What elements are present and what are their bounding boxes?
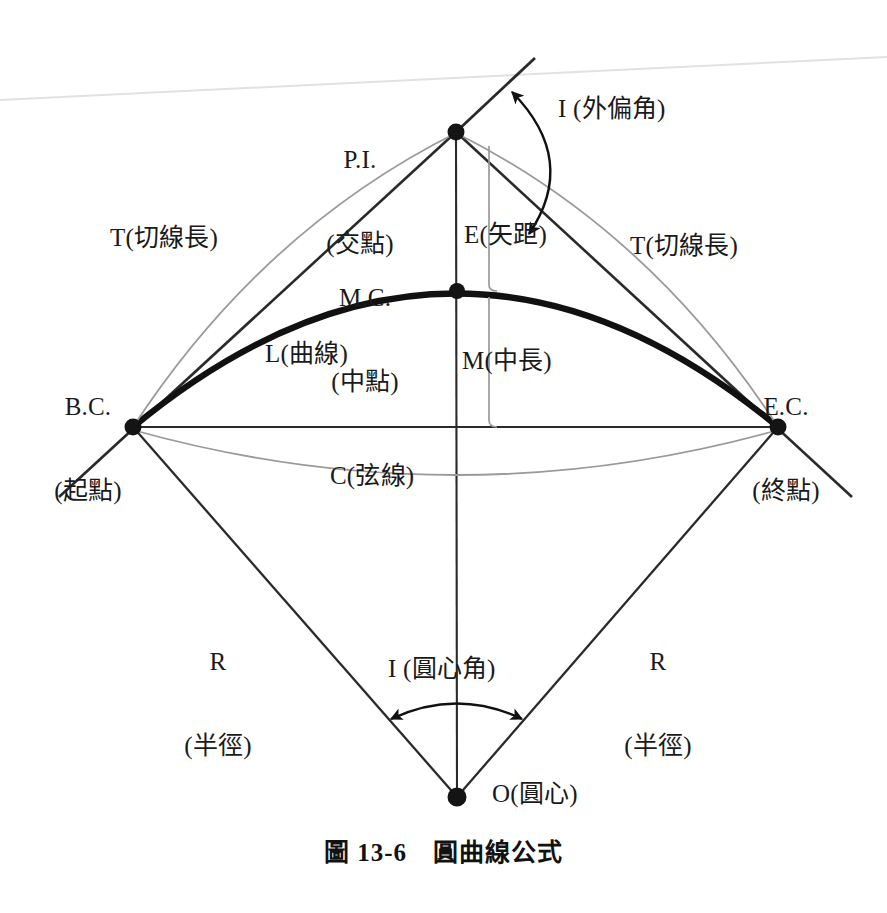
pi-point-dot bbox=[448, 124, 465, 141]
scan-artifact-line bbox=[0, 57, 887, 100]
label-center: O(圓心) bbox=[492, 780, 578, 808]
center-point-dot bbox=[448, 788, 467, 807]
tangent-extension-top bbox=[456, 58, 535, 132]
label-middle-ordinate: M(中長) bbox=[462, 347, 552, 375]
mc-point-dot bbox=[449, 283, 465, 299]
label-arc-length: L(曲線) bbox=[265, 340, 348, 368]
label-tangent-right: T(切線長) bbox=[630, 232, 738, 260]
label-bc: B.C. (起點) bbox=[28, 337, 148, 561]
label-central-angle: I (圓心角) bbox=[388, 655, 496, 683]
label-external: E(矢距) bbox=[464, 221, 547, 249]
label-pi-code: P.I. bbox=[300, 146, 420, 174]
label-radius-right: R (半徑) bbox=[598, 592, 718, 816]
label-bc-chinese: (起點) bbox=[28, 477, 148, 505]
label-bc-code: B.C. bbox=[28, 393, 148, 421]
label-ec-code: E.C. bbox=[726, 393, 846, 421]
label-radius-left: R (半徑) bbox=[158, 592, 278, 816]
label-tangent-left: T(切線長) bbox=[110, 224, 218, 252]
label-radius-right-chinese: (半徑) bbox=[598, 732, 718, 760]
label-radius-right-code: R bbox=[598, 648, 718, 676]
label-mc-chinese: (中點) bbox=[300, 368, 430, 396]
label-ec-chinese: (終點) bbox=[726, 477, 846, 505]
figure-canvas: P.I. (交點) I (外偏角) T(切線長) T(切線長) M.C. (中點… bbox=[0, 0, 887, 913]
label-ec: E.C. (終點) bbox=[726, 337, 846, 561]
label-mc-code: M.C. bbox=[300, 284, 430, 312]
figure-caption: 圖 13-6 圓曲線公式 bbox=[0, 832, 887, 868]
label-deflection-angle: I (外偏角) bbox=[558, 95, 666, 123]
center-axis-line bbox=[456, 132, 457, 797]
label-radius-left-code: R bbox=[158, 648, 278, 676]
label-chord: C(弦線) bbox=[330, 462, 414, 490]
label-radius-left-chinese: (半徑) bbox=[158, 732, 278, 760]
